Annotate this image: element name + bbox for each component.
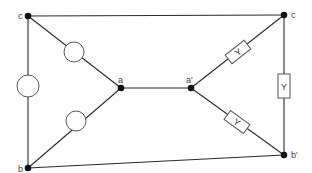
- label-b-left: b: [18, 164, 23, 173]
- top-rail-wire: [28, 15, 284, 16]
- node-b-left: [25, 165, 32, 172]
- bottom-rail-wire: [28, 155, 284, 168]
- vertical-y-box: Y: [278, 74, 290, 98]
- upper-y-box: Y: [225, 40, 251, 63]
- vertical-y-label: Y: [281, 82, 287, 92]
- circuit-diagram: Y Y Y c b a a' c b': [0, 0, 312, 173]
- node-b-prime: [281, 152, 288, 159]
- node-a: [118, 85, 125, 92]
- upper-circle-element: [64, 42, 84, 62]
- label-a: a: [118, 75, 123, 85]
- lower-y-box: Y: [224, 110, 250, 133]
- label-c-right: c: [291, 10, 296, 20]
- node-c-right: [281, 12, 288, 19]
- label-c-left: c: [18, 11, 23, 21]
- node-c-left: [25, 13, 32, 20]
- label-b-prime: b': [291, 150, 298, 160]
- lower-circle-element: [66, 111, 86, 131]
- label-a-prime: a': [186, 75, 193, 85]
- left-vertical-circle-element: [17, 75, 39, 97]
- node-a-prime: [188, 85, 195, 92]
